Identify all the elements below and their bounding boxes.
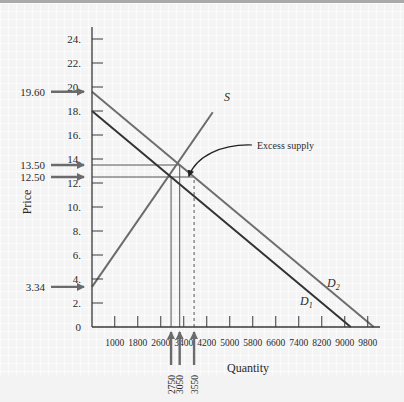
- quantity-marker-label: 3550: [190, 375, 200, 394]
- y-tick-label: 8.: [73, 225, 82, 237]
- y-tick-label: 14.: [67, 153, 81, 165]
- series-s-line: [92, 112, 213, 287]
- price-marker-label: 3.34: [26, 281, 46, 293]
- x-tick-label: 9800: [358, 338, 377, 348]
- excess-supply-arrow: [189, 145, 252, 176]
- demand1-curve-label: D1: [299, 294, 313, 310]
- x-tick-label: 3400: [174, 338, 193, 348]
- y-tick-label: 0: [76, 321, 82, 333]
- supply-demand-chart: SD1D2 02.4.6.8.10.12.14.16.18.20.22.24.1…: [0, 0, 404, 402]
- quantity-marker-label: 3050: [175, 375, 185, 394]
- y-tick-label: 16.: [67, 129, 81, 141]
- y-tick-label: 10.: [67, 201, 81, 213]
- supply-curve-label: S: [224, 90, 230, 104]
- price-marker-label: 19.60: [20, 86, 45, 98]
- x-tick-label: 2600: [151, 338, 170, 348]
- x-tick-label: 7400: [289, 338, 308, 348]
- x-axis-label: Quantity: [227, 361, 269, 375]
- y-tick-label: 6.: [73, 249, 82, 261]
- x-tick-label: 6600: [266, 338, 285, 348]
- x-tick-label: 8200: [312, 338, 331, 348]
- demand2-curve-label: D2: [326, 276, 340, 292]
- series-d2-line: [92, 92, 374, 327]
- price-marker-label: 12.50: [20, 171, 45, 183]
- x-tick-label: 1000: [105, 338, 124, 348]
- x-tick-label: 5800: [243, 338, 262, 348]
- y-tick-label: 2.: [73, 297, 82, 309]
- y-tick-label: 12.: [67, 177, 81, 189]
- y-tick-label: 22.: [67, 57, 81, 69]
- x-tick-label: 9000: [335, 338, 354, 348]
- excess-supply-label: Excess supply: [257, 140, 314, 151]
- y-axis-label: Price: [20, 190, 34, 215]
- price-marker-label: 13.50: [20, 159, 45, 171]
- y-tick-label: 18.: [67, 105, 81, 117]
- x-tick-label: 5000: [220, 338, 239, 348]
- x-tick-label: 4200: [197, 338, 216, 348]
- y-tick-label: 4.: [73, 273, 82, 285]
- x-tick-label: 1800: [128, 338, 147, 348]
- y-tick-label: 24.: [67, 33, 81, 45]
